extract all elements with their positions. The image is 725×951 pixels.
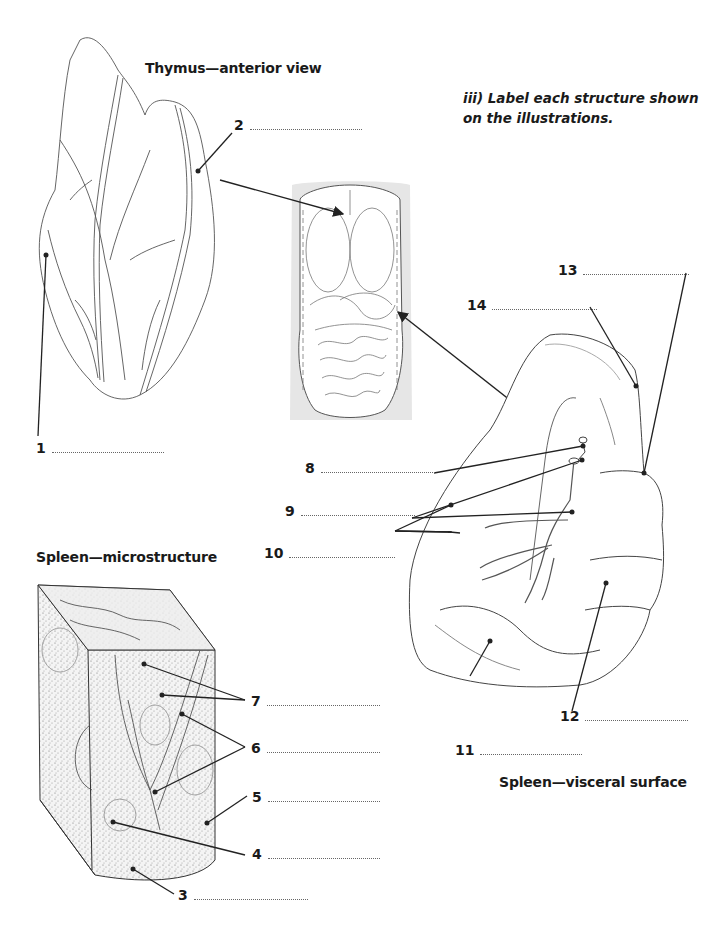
answer-blank-9[interactable] xyxy=(301,515,415,516)
answer-blank-2[interactable] xyxy=(250,129,362,130)
spleen-visceral-illustration xyxy=(409,334,663,687)
answer-blank-11[interactable] xyxy=(480,754,582,755)
label-number: 2 xyxy=(234,117,244,133)
answer-blank-8[interactable] xyxy=(321,472,435,473)
answer-blank-1[interactable] xyxy=(52,452,164,453)
label-2: 2 xyxy=(234,117,362,133)
spleen-microstructure-illustration xyxy=(38,585,215,880)
label-13: 13 xyxy=(558,262,689,278)
label-number: 13 xyxy=(558,262,577,278)
label-7: 7 xyxy=(251,693,380,709)
label-number: 5 xyxy=(252,789,262,805)
spleen-visceral-figure-title: Spleen—visceral surface xyxy=(499,774,687,790)
spleen-microstructure-figure-title: Spleen—microstructure xyxy=(36,549,217,565)
label-10: 10 xyxy=(264,545,395,561)
label-number: 12 xyxy=(560,708,579,724)
instruction-line-1: iii) Label each structure shown xyxy=(463,88,699,108)
label-number: 8 xyxy=(305,460,315,476)
answer-blank-7[interactable] xyxy=(267,705,380,706)
label-14: 14 xyxy=(467,297,597,313)
label-4: 4 xyxy=(252,846,380,862)
label-number: 6 xyxy=(251,740,261,756)
answer-blank-3[interactable] xyxy=(194,899,308,900)
answer-blank-6[interactable] xyxy=(267,752,380,753)
answer-blank-12[interactable] xyxy=(585,720,688,721)
answer-blank-14[interactable] xyxy=(492,309,597,310)
label-9: 9 xyxy=(285,503,415,519)
answer-blank-4[interactable] xyxy=(268,858,380,859)
label-5: 5 xyxy=(252,789,380,805)
label-number: 14 xyxy=(467,297,486,313)
torso-illustration xyxy=(290,181,412,420)
label-number: 11 xyxy=(455,742,474,758)
label-number: 7 xyxy=(251,693,261,709)
label-11: 11 xyxy=(455,742,582,758)
label-3: 3 xyxy=(178,887,308,903)
label-number: 9 xyxy=(285,503,295,519)
label-12: 12 xyxy=(560,708,688,724)
label-1: 1 xyxy=(36,440,164,456)
instruction-line-2: on the illustrations. xyxy=(463,108,699,128)
answer-blank-5[interactable] xyxy=(268,801,380,802)
label-6: 6 xyxy=(251,740,380,756)
answer-blank-13[interactable] xyxy=(583,274,689,275)
label-8: 8 xyxy=(305,460,435,476)
label-number: 3 xyxy=(178,887,188,903)
label-number: 10 xyxy=(264,545,283,561)
instruction-text: iii) Label each structure shown on the i… xyxy=(463,88,699,128)
label-number: 1 xyxy=(36,440,46,456)
label-number: 4 xyxy=(252,846,262,862)
answer-blank-10[interactable] xyxy=(289,557,395,558)
thymus-illustration xyxy=(39,38,214,399)
thymus-figure-title: Thymus—anterior view xyxy=(145,60,322,76)
